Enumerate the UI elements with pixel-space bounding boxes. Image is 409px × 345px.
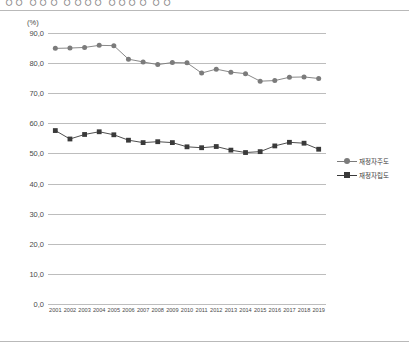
data-point-square [214,144,219,149]
chart-legend: 재정자주도재정자립도 [337,155,407,183]
legend-circle-icon [337,156,357,166]
data-point-square [170,140,175,145]
x-tick-label: 2001 [49,307,61,313]
x-tick-label: 2002 [64,307,76,313]
series-line [55,131,318,153]
legend-item[interactable]: 재정자주도 [337,155,407,167]
data-point-square [258,149,263,154]
x-tick-label: 2004 [93,307,105,313]
frame-top-rule [0,10,409,11]
x-tick-label: 2011 [196,307,208,313]
data-point-square [287,140,292,145]
data-point-square [243,150,248,155]
y-tick-label: 0,0 [34,300,44,309]
data-point-square [272,144,277,149]
chart-page: ㅇㅇ ㅇㅇㅇ ㅇㅇㅇㅇ ㅇㅇㅇㅇ ㅇㅇ (%) 90,080,070,060,0… [0,0,409,345]
data-point-square [141,140,146,145]
x-tick-label: 2016 [269,307,281,313]
data-point-square [126,138,131,143]
y-tick-label: 10,0 [29,269,44,278]
data-point-circle [243,71,248,76]
legend-marker [344,158,350,164]
legend-item[interactable]: 재정자립도 [337,169,407,181]
x-tick-label: 2015 [254,307,266,313]
legend-label: 재정자립도 [357,170,389,180]
x-tick-label: 2006 [122,307,134,313]
data-point-circle [228,70,233,75]
x-tick-label: 2009 [166,307,178,313]
y-tick-label: 60,0 [29,119,44,128]
data-point-square [68,137,73,142]
y-tick-label: 70,0 [29,89,44,98]
x-tick-label: 2018 [298,307,310,313]
legend-label: 재정자주도 [357,156,389,166]
legend-square-icon [337,170,357,180]
x-tick-label: 2008 [152,307,164,313]
x-tick-label: 2013 [225,307,237,313]
y-tick-label: 20,0 [29,239,44,248]
y-tick-label: 50,0 [29,149,44,158]
y-tick-label: 80,0 [29,59,44,68]
x-axis-labels: 2001200220032004200520062007200820092010… [48,307,326,319]
data-point-circle [170,60,175,65]
x-tick-label: 2019 [312,307,324,313]
frame-bottom-rule [0,341,409,342]
data-point-circle [97,43,102,48]
y-tick-label: 90,0 [29,29,44,38]
data-point-circle [199,71,204,76]
series-circle [53,43,321,84]
data-point-square [53,128,58,133]
data-point-circle [287,75,292,80]
data-point-square [185,144,190,149]
data-point-circle [111,43,116,48]
series-square [53,128,321,155]
page-heading: ㅇㅇ ㅇㅇㅇ ㅇㅇㅇㅇ ㅇㅇㅇㅇ ㅇㅇ [4,0,264,6]
x-tick-label: 2010 [181,307,193,313]
data-point-circle [302,74,307,79]
gridline-0-0 [48,304,326,305]
data-point-circle [185,60,190,65]
x-tick-label: 2003 [78,307,90,313]
data-point-square [82,132,87,137]
data-point-circle [316,76,321,81]
y-axis-unit-label: (%) [27,18,39,27]
data-point-square [228,148,233,153]
data-point-square [111,132,116,137]
y-tick-label: 30,0 [29,209,44,218]
x-tick-label: 2017 [283,307,295,313]
data-point-square [155,139,160,144]
data-point-square [302,141,307,146]
data-point-circle [67,46,72,51]
data-point-square [199,145,204,150]
x-tick-label: 2012 [210,307,222,313]
data-point-circle [258,79,263,84]
data-point-circle [214,67,219,72]
data-point-square [316,147,321,152]
y-axis-labels: 90,080,070,060,050,040,030,020,010,00,0 [0,33,44,304]
series-layer [48,33,326,304]
y-tick-label: 40,0 [29,179,44,188]
data-point-circle [141,59,146,64]
data-point-circle [53,46,58,51]
data-point-circle [126,57,131,62]
data-point-circle [272,78,277,83]
x-tick-label: 2005 [108,307,120,313]
x-tick-label: 2014 [239,307,251,313]
data-point-circle [155,62,160,67]
legend-marker [344,172,350,178]
x-tick-label: 2007 [137,307,149,313]
data-point-square [97,129,102,134]
data-point-circle [82,45,87,50]
